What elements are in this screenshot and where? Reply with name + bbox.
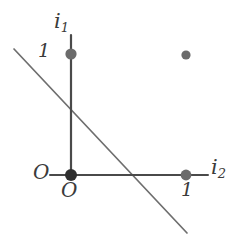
vertical-axis-label-subscript: 1 [61, 20, 69, 35]
horizontal-axis-label-base: i [211, 155, 218, 179]
point-isolated [181, 50, 190, 59]
horizontal-axis-label-subscript: 2 [218, 166, 226, 181]
horizontal-axis-label: i2 [211, 157, 226, 180]
unit-label-vertical: 1 [38, 41, 50, 60]
origin-label-left: O [33, 162, 49, 182]
origin-label-below: O [61, 180, 77, 200]
vertical-axis-label-base: i [54, 9, 61, 33]
unit-label-horizontal: 1 [181, 180, 193, 199]
math-figure: i1 i2 1 1 O O [0, 0, 245, 243]
vertical-axis-label: i1 [54, 11, 69, 34]
diagonal-line [14, 49, 187, 233]
point-unit-i1 [65, 48, 76, 59]
figure-canvas [0, 0, 245, 243]
